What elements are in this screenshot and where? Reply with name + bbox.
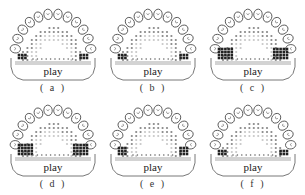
panel-caption: ( a ): [3, 82, 103, 93]
electropalatography-figure: play ( a ) play ( b ) play ( c ) play ( …: [0, 0, 305, 195]
tooth-icon: [282, 33, 295, 45]
tooth-icon: [11, 33, 24, 45]
panel-caption: ( b ): [103, 82, 203, 93]
tooth-icon: [43, 105, 53, 116]
tooth-icon: [211, 33, 224, 45]
panel-c: play ( c ): [203, 2, 303, 97]
tooth-icon: [111, 129, 124, 141]
panel-f: play ( f ): [203, 98, 303, 193]
tooth-icon: [110, 44, 121, 54]
panel-b: play ( b ): [103, 2, 203, 97]
tooth-icon: [182, 33, 195, 45]
tooth-icon: [253, 105, 263, 116]
tooth-icon: [182, 129, 195, 141]
word-label: play: [3, 161, 103, 173]
panel-d: play ( d ): [3, 98, 103, 193]
panel-e: play ( e ): [103, 98, 203, 193]
word-label: play: [103, 161, 203, 173]
tooth-icon: [211, 129, 224, 141]
tooth-icon: [143, 105, 153, 116]
tooth-icon: [82, 33, 95, 45]
tooth-icon: [282, 129, 295, 141]
tooth-icon: [82, 129, 95, 141]
tooth-icon: [111, 33, 124, 45]
tooth-icon: [10, 44, 21, 54]
tooth-icon: [153, 105, 163, 116]
word-label: play: [203, 161, 303, 173]
panel-caption: ( f ): [203, 178, 303, 189]
tooth-icon: [285, 140, 296, 150]
word-label: play: [203, 65, 303, 77]
tooth-icon: [85, 44, 96, 54]
tooth-icon: [53, 9, 63, 20]
tooth-icon: [43, 9, 53, 20]
word-label: play: [3, 65, 103, 77]
word-label: play: [103, 65, 203, 77]
panel-caption: ( e ): [103, 178, 203, 189]
tooth-icon: [253, 9, 263, 20]
tooth-icon: [53, 105, 63, 116]
tooth-icon: [185, 44, 196, 54]
tooth-icon: [153, 9, 163, 20]
tooth-icon: [210, 140, 221, 150]
tooth-icon: [243, 105, 253, 116]
panel-a: play ( a ): [3, 2, 103, 97]
panel-caption: ( d ): [3, 178, 103, 189]
panel-caption: ( c ): [203, 82, 303, 93]
tooth-icon: [243, 9, 253, 20]
tooth-icon: [143, 9, 153, 20]
tooth-icon: [11, 129, 24, 141]
